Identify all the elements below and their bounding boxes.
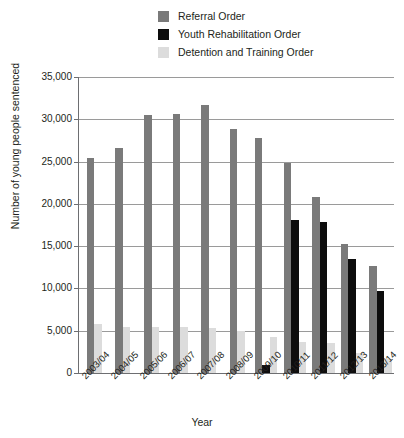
bar-group [166,77,195,373]
bar [341,244,349,373]
bar [144,115,152,373]
y-axis-tick-label: 5,000 [47,326,72,336]
bar [312,197,320,373]
y-axis-tick [74,246,79,247]
bar-group [280,77,309,373]
bar-group [309,77,338,373]
legend-label-referral-order: Referral Order [178,10,245,22]
legend-item-detention-and-training-order: Detention and Training Order [158,44,313,60]
bar-group [109,77,138,373]
y-axis-tick-label: 30,000 [41,114,72,124]
bar-group [223,77,252,373]
y-axis-tick [74,288,79,289]
y-axis-title: Number of young people sentenced [9,46,21,246]
legend-swatch-youth-rehabilitation-order [158,29,169,40]
y-axis-tick [74,119,79,120]
y-axis-tick [74,77,79,78]
y-axis-tick-label: 10,000 [41,283,72,293]
x-axis-title: Year [0,416,404,428]
bar-group [137,77,166,373]
y-axis-tick-label: 25,000 [41,157,72,167]
y-axis-tick [74,331,79,332]
y-axis-tick-label: 15,000 [41,241,72,251]
y-axis-tick [74,162,79,163]
y-axis-tick-label: 0 [66,368,72,378]
bar [291,220,299,373]
y-axis-tick-labels: 05,00010,00015,00020,00025,00030,00035,0… [28,77,72,373]
bar [369,266,377,373]
y-axis-tick-label: 20,000 [41,199,72,209]
bar [87,158,95,373]
bar-groups [80,77,394,373]
bar [255,138,263,373]
bar [230,129,238,373]
legend-item-referral-order: Referral Order [158,8,245,24]
y-axis-tick-label: 35,000 [41,72,72,82]
bar-group [366,77,395,373]
y-axis-tick [74,204,79,205]
bar-group [252,77,281,373]
plot-area [78,77,394,374]
legend-label-youth-rehabilitation-order: Youth Rehabilitation Order [178,28,301,40]
bar-group [195,77,224,373]
bar [320,222,328,373]
legend-swatch-referral-order [158,11,169,22]
legend-label-detention-and-training-order: Detention and Training Order [178,46,313,58]
bar [173,114,181,373]
chart-legend: Referral Order Youth Rehabilitation Orde… [0,6,404,60]
x-axis-tick-labels: 2003/042004/052005/062006/072007/082008/… [78,374,393,418]
bar [284,163,292,373]
legend-swatch-detention-and-training-order [158,47,169,58]
bar [115,148,123,373]
bar [201,105,209,373]
bar-group [80,77,109,373]
bar-group [338,77,367,373]
legend-item-youth-rehabilitation-order: Youth Rehabilitation Order [158,26,301,42]
